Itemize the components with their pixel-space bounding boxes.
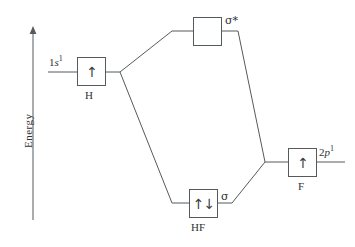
diagram-lines xyxy=(0,0,355,247)
energy-axis-arrowhead xyxy=(30,26,37,34)
config-label-f: 2p1 xyxy=(319,144,334,158)
orbital-box-sigma[interactable]: ↑↓ xyxy=(189,189,218,218)
mo-diagram-canvas: Energy ↑ 1s1 H σ* ↑↓ σ HF ↑ 2p1 F xyxy=(0,0,355,247)
correlation-h-to-sigma-star xyxy=(120,31,172,72)
electron-spins-h: ↑ xyxy=(78,58,105,85)
energy-axis-label: Energy xyxy=(22,113,34,148)
molecule-label-hf: HF xyxy=(191,221,205,233)
mo-label-sigma: σ xyxy=(221,190,229,203)
orbital-box-sigma-star[interactable] xyxy=(193,17,222,46)
mo-label-sigma-star: σ* xyxy=(225,14,238,27)
atom-label-h: H xyxy=(85,89,93,101)
electron-spins-sigma-star xyxy=(194,18,221,45)
atom-label-f: F xyxy=(298,180,304,192)
correlation-h-to-sigma xyxy=(120,72,172,203)
correlation-sigma-to-f xyxy=(232,162,265,203)
correlation-sigma-star-to-f xyxy=(238,31,265,162)
electron-spins-sigma: ↑↓ xyxy=(190,190,217,217)
config-label-h: 1s1 xyxy=(49,54,63,68)
orbital-box-h-1s[interactable]: ↑ xyxy=(77,57,106,86)
electron-spins-f: ↑ xyxy=(289,149,316,176)
orbital-box-f-2p[interactable]: ↑ xyxy=(288,148,317,177)
